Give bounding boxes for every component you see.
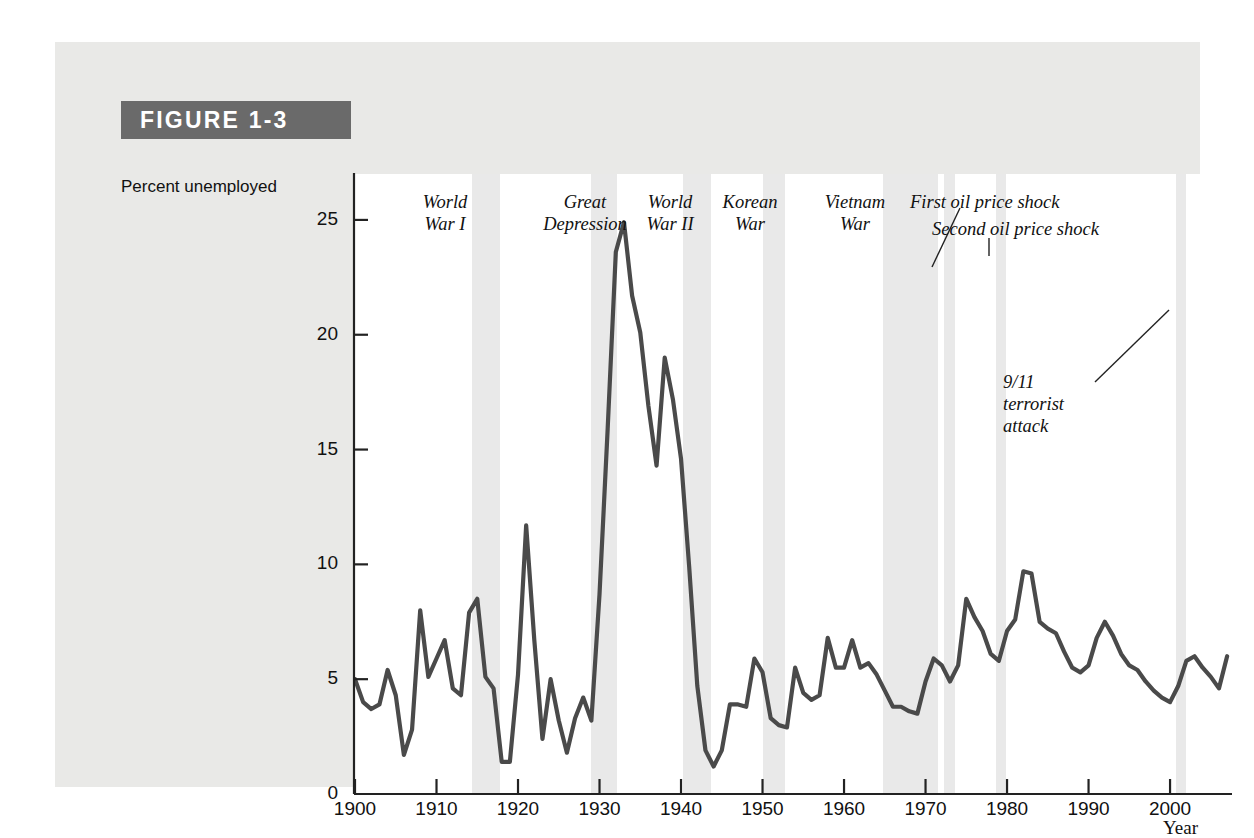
y-axis-title: Percent unemployed xyxy=(121,177,277,197)
annotation-second-oil-price-shock: Second oil price shock xyxy=(932,219,1099,241)
x-tick-label: 1970 xyxy=(891,798,961,820)
x-tick-label: 1950 xyxy=(728,798,798,820)
x-tick-label: 1910 xyxy=(402,798,472,820)
y-tick-label: 10 xyxy=(298,552,338,574)
annotation-world-war-i: World War I xyxy=(385,192,505,236)
x-tick-label: 1920 xyxy=(483,798,553,820)
x-tick-label: 1940 xyxy=(646,798,716,820)
x-tick-label: 1900 xyxy=(320,798,390,820)
y-tick-label: 15 xyxy=(298,438,338,460)
x-tick-label: 1980 xyxy=(972,798,1042,820)
plot-area xyxy=(355,174,1232,794)
annotation-first-oil-price-shock: First oil price shock xyxy=(910,192,1060,214)
figure-page: FIGURE 1-3 Percent unemployed 0510152025… xyxy=(55,42,1200,787)
x-tick-label: 1930 xyxy=(565,798,635,820)
x-axis-title: Year xyxy=(1163,817,1198,838)
unemployment-line-series xyxy=(355,174,1232,794)
figure-number-banner: FIGURE 1-3 xyxy=(121,101,351,139)
x-tick-label: 1990 xyxy=(1054,798,1124,820)
y-tick-label: 20 xyxy=(298,323,338,345)
unemployment-rate-line xyxy=(355,222,1227,766)
annotation-korean-war: Korean War xyxy=(695,192,805,236)
annotation-nine-eleven: 9/11 terrorist attack xyxy=(1003,372,1064,437)
x-tick-label: 1960 xyxy=(809,798,879,820)
y-tick-label: 5 xyxy=(298,667,338,689)
annotation-vietnam-war: Vietnam War xyxy=(795,192,915,236)
figure-number-label: FIGURE 1-3 xyxy=(121,107,289,134)
y-tick-label: 25 xyxy=(298,208,338,230)
